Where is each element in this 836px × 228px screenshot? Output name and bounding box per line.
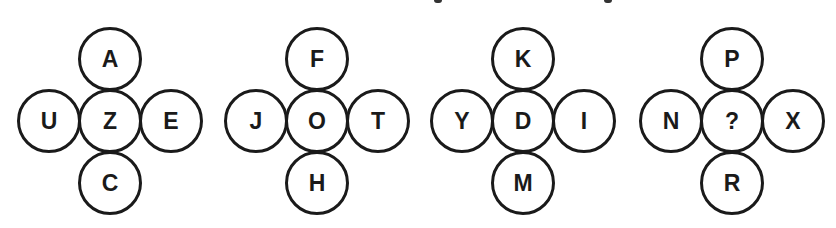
circle-letter: C [102,172,119,195]
circle-top: K [491,27,555,91]
circle-bottom: R [700,151,764,215]
circle-letter: E [163,110,178,133]
circle-letter: U [41,110,58,133]
circle-letter: X [785,110,800,133]
cropped-text-fragment [604,0,612,3]
circle-letter: D [515,110,532,133]
circle-bottom: C [78,151,142,215]
circle-letter: F [310,48,324,71]
circle-letter: P [724,48,739,71]
circle-right: I [552,89,616,153]
circle-center: O [285,89,349,153]
circle-top: A [78,27,142,91]
circle-right: T [346,89,410,153]
circle-letter: Y [454,110,469,133]
circle-top: P [700,27,764,91]
circle-letter: O [308,110,326,133]
circle-letter: I [581,110,587,133]
circle-bottom: M [491,151,555,215]
circle-bottom: H [285,151,349,215]
circle-center-unknown: ? [700,89,764,153]
question-mark: ? [725,110,739,133]
circle-right: X [761,89,825,153]
puzzle-diagram: A U Z E C F J O T H [0,0,836,228]
circle-left: U [17,89,81,153]
circle-left: J [224,89,288,153]
circle-letter: T [371,110,385,133]
circle-letter: N [663,110,680,133]
circle-letter: J [250,110,263,133]
circle-letter: H [309,172,326,195]
cropped-text-fragment [434,0,442,3]
circle-letter: Z [103,110,117,133]
circle-top: F [285,27,349,91]
circle-left: N [639,89,703,153]
circle-letter: M [513,172,532,195]
circle-center: Z [78,89,142,153]
circle-letter: A [102,48,119,71]
circle-letter: K [515,48,532,71]
circle-center: D [491,89,555,153]
circle-letter: R [724,172,741,195]
circle-left: Y [430,89,494,153]
circle-right: E [139,89,203,153]
